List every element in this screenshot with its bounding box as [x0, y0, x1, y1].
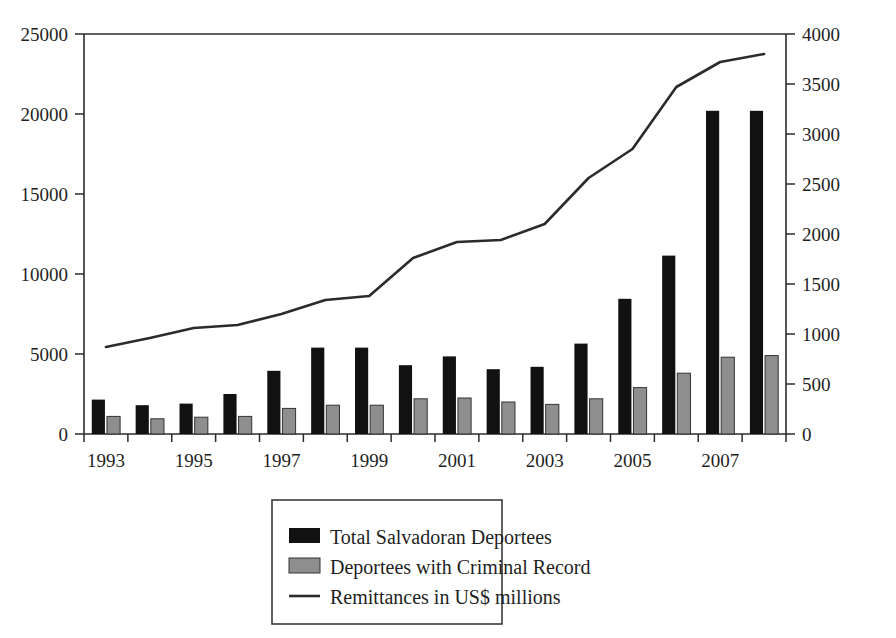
x-axis-tick-label: 2003 — [526, 450, 564, 471]
bar-total-deportees — [443, 356, 456, 434]
bar-criminal-record — [502, 402, 515, 434]
plot-area: 0500010000150002000025000050010001500200… — [21, 24, 841, 624]
y-axis-tick-label-left: 0 — [59, 424, 69, 445]
bar-total-deportees — [223, 394, 236, 434]
y-axis-tick-label-left: 15000 — [21, 184, 69, 205]
bar-criminal-record — [414, 399, 427, 434]
bar-criminal-record — [633, 388, 646, 434]
bar-criminal-record — [326, 405, 339, 434]
bar-total-deportees — [706, 111, 719, 434]
bar-total-deportees — [750, 111, 763, 434]
bar-total-deportees — [531, 367, 544, 434]
legend-item-label: Deportees with Criminal Record — [330, 556, 591, 579]
bar-total-deportees — [574, 344, 587, 434]
y-axis-tick-label-left: 25000 — [21, 24, 69, 45]
y-axis-tick-label-right: 3500 — [802, 74, 840, 95]
legend-item-label: Remittances in US$ millions — [330, 586, 561, 608]
bar-total-deportees — [487, 369, 500, 434]
bar-criminal-record — [546, 404, 559, 434]
bar-criminal-record — [721, 357, 734, 434]
bar-criminal-record — [151, 419, 164, 434]
x-axis-tick-label: 2007 — [701, 450, 739, 471]
bar-total-deportees — [136, 405, 149, 434]
chart-figure: 0500010000150002000025000050010001500200… — [0, 0, 896, 638]
bar-total-deportees — [311, 348, 324, 434]
y-axis-tick-label-right: 2000 — [802, 224, 840, 245]
legend-swatch-square — [289, 558, 320, 573]
bar-criminal-record — [765, 356, 778, 434]
x-axis-tick-label: 1995 — [175, 450, 213, 471]
bar-criminal-record — [677, 373, 690, 434]
y-axis-tick-label-left: 10000 — [21, 264, 69, 285]
bar-criminal-record — [590, 399, 603, 434]
y-axis-tick-label-right: 4000 — [802, 24, 840, 45]
y-axis-tick-label-right: 0 — [802, 424, 812, 445]
y-axis-tick-label-left: 20000 — [21, 104, 69, 125]
bar-total-deportees — [92, 400, 105, 434]
y-axis-tick-label-right: 500 — [802, 374, 831, 395]
x-axis-tick-label: 1997 — [262, 450, 300, 471]
y-axis-tick-label-left: 5000 — [30, 344, 68, 365]
legend-item-label: Total Salvadoran Deportees — [330, 526, 552, 549]
bar-total-deportees — [180, 404, 193, 434]
y-axis-tick-label-right: 2500 — [802, 174, 840, 195]
bar-total-deportees — [355, 348, 368, 434]
x-axis-tick-label: 1999 — [350, 450, 388, 471]
bar-criminal-record — [195, 417, 208, 434]
bar-criminal-record — [458, 398, 471, 434]
bar-total-deportees — [662, 256, 675, 434]
combo-chart-svg: 0500010000150002000025000050010001500200… — [0, 0, 896, 638]
bar-criminal-record — [282, 408, 295, 434]
bar-criminal-record — [239, 416, 252, 434]
x-axis-tick-label: 2001 — [438, 450, 476, 471]
x-axis-tick-label: 1993 — [87, 450, 125, 471]
y-axis-tick-label-right: 1500 — [802, 274, 840, 295]
legend-swatch-square — [289, 528, 320, 543]
bar-total-deportees — [399, 365, 412, 434]
bar-criminal-record — [107, 416, 120, 434]
bar-total-deportees — [267, 371, 280, 434]
bar-total-deportees — [618, 299, 631, 434]
bar-criminal-record — [370, 405, 383, 434]
x-axis-tick-label: 2005 — [613, 450, 651, 471]
y-axis-tick-label-right: 3000 — [802, 124, 840, 145]
y-axis-tick-label-right: 1000 — [802, 324, 840, 345]
